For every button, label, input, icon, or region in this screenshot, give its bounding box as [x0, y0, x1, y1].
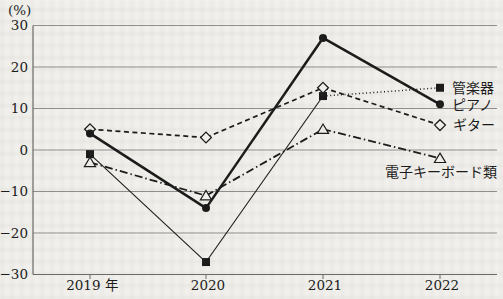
- series-guitar-line-segment-1: [90, 129, 206, 137]
- series-wind-instruments-marker-2022: [436, 84, 444, 92]
- series-electronic-keyboards-line-segment-3: [323, 129, 440, 158]
- series-guitar-marker-2020: [201, 132, 212, 143]
- line-chart: 3020100−10−20−302019 年202020212022(%)管楽器…: [0, 0, 503, 299]
- series-electronic-keyboards-line-segment-2: [206, 129, 323, 195]
- y-axis-unit-label: (%): [8, 2, 31, 18]
- series-wind-instruments-marker-2020: [202, 258, 210, 266]
- series-electronic-keyboards-line-segment-1: [90, 162, 206, 195]
- series-piano-marker-2022: [436, 100, 444, 108]
- y-axis-label--20: −20: [0, 225, 28, 241]
- x-axis-label-2020: 2020: [191, 277, 225, 293]
- series-electronic-keyboards-marker-2021: [317, 124, 328, 133]
- x-axis-label-2021: 2021: [308, 277, 342, 293]
- y-axis-label--10: −10: [0, 183, 28, 199]
- y-axis-label-30: 30: [11, 17, 28, 33]
- series-electronic-keyboards-marker-2022: [434, 153, 445, 162]
- y-axis-label-0: 0: [19, 142, 28, 158]
- series-piano-line-segment-2: [206, 38, 323, 208]
- chart-page: 3020100−10−20−302019 年202020212022(%)管楽器…: [0, 0, 503, 299]
- y-axis-label--30: −30: [0, 266, 28, 282]
- x-axis-label-2019: 2019 年: [66, 277, 118, 293]
- series-label-guitar: ギター: [453, 117, 495, 133]
- series-guitar-line-segment-2: [206, 88, 323, 138]
- series-piano-marker-2021: [319, 34, 327, 42]
- series-guitar-marker-2021: [318, 82, 329, 93]
- series-piano-line-segment-3: [323, 38, 440, 104]
- series-piano-marker-2019: [86, 129, 94, 137]
- series-piano-marker-2020: [202, 204, 210, 212]
- series-label-wind-instruments: 管楽器: [452, 80, 494, 96]
- y-axis-label-10: 10: [11, 100, 28, 116]
- x-axis-label-2022: 2022: [425, 277, 459, 293]
- series-label-piano: ピアノ: [452, 97, 493, 113]
- series-guitar-marker-2022: [435, 120, 446, 131]
- series-electronic-keyboards-marker-2019: [84, 157, 95, 166]
- series-label-electronic-keyboards: 電子キーボード類: [385, 164, 497, 180]
- y-axis-label-20: 20: [11, 59, 28, 75]
